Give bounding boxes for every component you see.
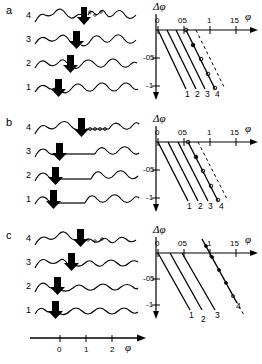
stimulus-arrow-icon bbox=[69, 31, 84, 49]
curve-label: 2 bbox=[201, 314, 206, 324]
trace-row: 4 bbox=[20, 118, 140, 142]
y-axis-arrowhead bbox=[153, 92, 159, 100]
x-tick-label: 1 bbox=[207, 16, 211, 25]
panel-a-plot: Δφ φ 0 05 1 15 -05 -1 1 2 3 4 bbox=[140, 0, 262, 112]
y-axis-label: Δφ bbox=[153, 223, 166, 235]
trace-waveform-3 bbox=[33, 30, 141, 54]
x-tick-label: 0 bbox=[155, 128, 159, 137]
y-tick-label: -1 bbox=[146, 81, 153, 90]
panel-c-plot: Δφ φ 0 05 1 15 -05 -1 1 2 3 4 bbox=[140, 225, 262, 330]
stimulus-arrow-icon bbox=[48, 301, 63, 319]
y-tick-label: -1 bbox=[146, 300, 153, 309]
curve-label: 4 bbox=[219, 201, 224, 211]
x-tick-label: 05 bbox=[178, 16, 187, 25]
x-tick-label: 15 bbox=[230, 16, 239, 25]
curve-label: 1 bbox=[189, 310, 194, 320]
stimulus-arrow-icon bbox=[48, 167, 63, 185]
x-axis-arrowhead bbox=[250, 139, 258, 145]
trace-row: 3 bbox=[20, 30, 140, 54]
curve-label: 2 bbox=[198, 201, 203, 211]
trace-waveform-1 bbox=[33, 301, 141, 325]
panel-c: c 4 3 bbox=[0, 225, 262, 330]
x-axis-arrowhead bbox=[250, 27, 258, 33]
x-axis-arrowhead bbox=[250, 250, 258, 256]
panel-b-traces: 4 3 bbox=[20, 114, 140, 227]
panel-c-traces: 4 3 2 bbox=[20, 227, 140, 332]
y-tick-label: -05 bbox=[143, 165, 155, 174]
curve-label: 4 bbox=[236, 301, 241, 311]
x-axis-label: φ bbox=[245, 122, 251, 134]
trace-row: 1 bbox=[20, 190, 140, 214]
trace-label: 2 bbox=[20, 282, 31, 291]
stimulus-arrow-icon bbox=[73, 229, 88, 247]
bottom-axis-label: φ bbox=[125, 341, 131, 353]
trace-row: 3 bbox=[20, 253, 140, 277]
trace-label: 3 bbox=[20, 147, 31, 156]
curve-label: 3 bbox=[215, 310, 220, 320]
stimulus-arrow-icon bbox=[52, 143, 67, 161]
trace-label: 2 bbox=[20, 171, 31, 180]
x-tick-label: 1 bbox=[207, 239, 211, 248]
trace-row: 1 bbox=[20, 78, 140, 102]
trace-label: 4 bbox=[20, 11, 31, 20]
x-tick-label: 0 bbox=[155, 239, 159, 248]
curve-label: 3 bbox=[208, 201, 213, 211]
stimulus-arrow-icon bbox=[77, 7, 91, 25]
x-tick-label: 15 bbox=[230, 239, 239, 248]
panel-a: a 4 3 bbox=[0, 0, 262, 112]
curve-label: 4 bbox=[215, 89, 220, 99]
y-tick-label: -1 bbox=[146, 193, 153, 202]
stimulus-arrow-icon bbox=[63, 55, 78, 73]
trace-label: 2 bbox=[20, 59, 31, 68]
bottom-phase-axis: 0 1 2 φ bbox=[20, 330, 170, 364]
bottom-tick-label: 1 bbox=[84, 345, 88, 354]
y-axis-arrowhead bbox=[153, 204, 159, 212]
trace-waveform-4 bbox=[33, 229, 141, 253]
y-tick-label: -05 bbox=[143, 53, 155, 62]
y-axis-label: Δφ bbox=[153, 112, 166, 124]
trace-waveform-2 bbox=[33, 277, 141, 301]
bottom-axis-arrowhead bbox=[137, 335, 146, 342]
panel-b: b 4 3 bbox=[0, 112, 262, 225]
panel-letter-c: c bbox=[6, 229, 12, 241]
trace-waveform-3 bbox=[33, 142, 141, 166]
panel-a-traces: 4 3 2 bbox=[20, 2, 140, 114]
stimulus-arrow-icon bbox=[51, 79, 66, 97]
stimulus-arrow-icon bbox=[74, 118, 89, 137]
trace-label: 1 bbox=[20, 306, 31, 315]
trace-row: 2 bbox=[20, 54, 140, 78]
bottom-tick-label: 0 bbox=[57, 345, 61, 354]
y-axis-label: Δφ bbox=[153, 0, 166, 12]
curve-label: 3 bbox=[205, 89, 210, 99]
curve-1 bbox=[158, 253, 190, 310]
trace-row: 2 bbox=[20, 277, 140, 301]
curve-2 bbox=[170, 253, 202, 310]
x-tick-label: 05 bbox=[178, 128, 187, 137]
trace-row: 1 bbox=[20, 301, 140, 325]
x-tick-label: 15 bbox=[230, 128, 239, 137]
bottom-tick-label: 2 bbox=[110, 345, 114, 354]
y-axis-arrowhead bbox=[153, 311, 159, 319]
trace-label: 4 bbox=[20, 234, 31, 243]
panel-letter-a: a bbox=[6, 4, 13, 16]
panel-letter-b: b bbox=[6, 116, 13, 128]
trace-row: 4 bbox=[20, 229, 140, 253]
trace-row: 4 bbox=[20, 6, 140, 30]
trace-row: 3 bbox=[20, 142, 140, 166]
trace-waveform-2 bbox=[33, 54, 141, 78]
curve-label: 1 bbox=[185, 89, 190, 99]
trace-waveform-2 bbox=[33, 166, 141, 190]
stimulus-arrow-icon bbox=[50, 277, 65, 295]
trace-waveform-4 bbox=[33, 118, 141, 142]
bottom-axis-svg bbox=[20, 330, 170, 354]
curve-3 bbox=[182, 253, 215, 310]
x-tick-label: 0 bbox=[155, 16, 159, 25]
trace-label: 3 bbox=[20, 258, 31, 267]
x-tick-label: 1 bbox=[207, 128, 211, 137]
x-tick-label: 05 bbox=[178, 239, 187, 248]
panel-b-plot: Δφ φ 0 05 1 15 -05 -1 1 2 3 4 bbox=[140, 112, 262, 225]
trace-waveform-3 bbox=[33, 253, 141, 277]
curve-label: 2 bbox=[195, 89, 200, 99]
x-axis-label: φ bbox=[245, 233, 251, 245]
trace-waveform-1 bbox=[33, 190, 141, 214]
